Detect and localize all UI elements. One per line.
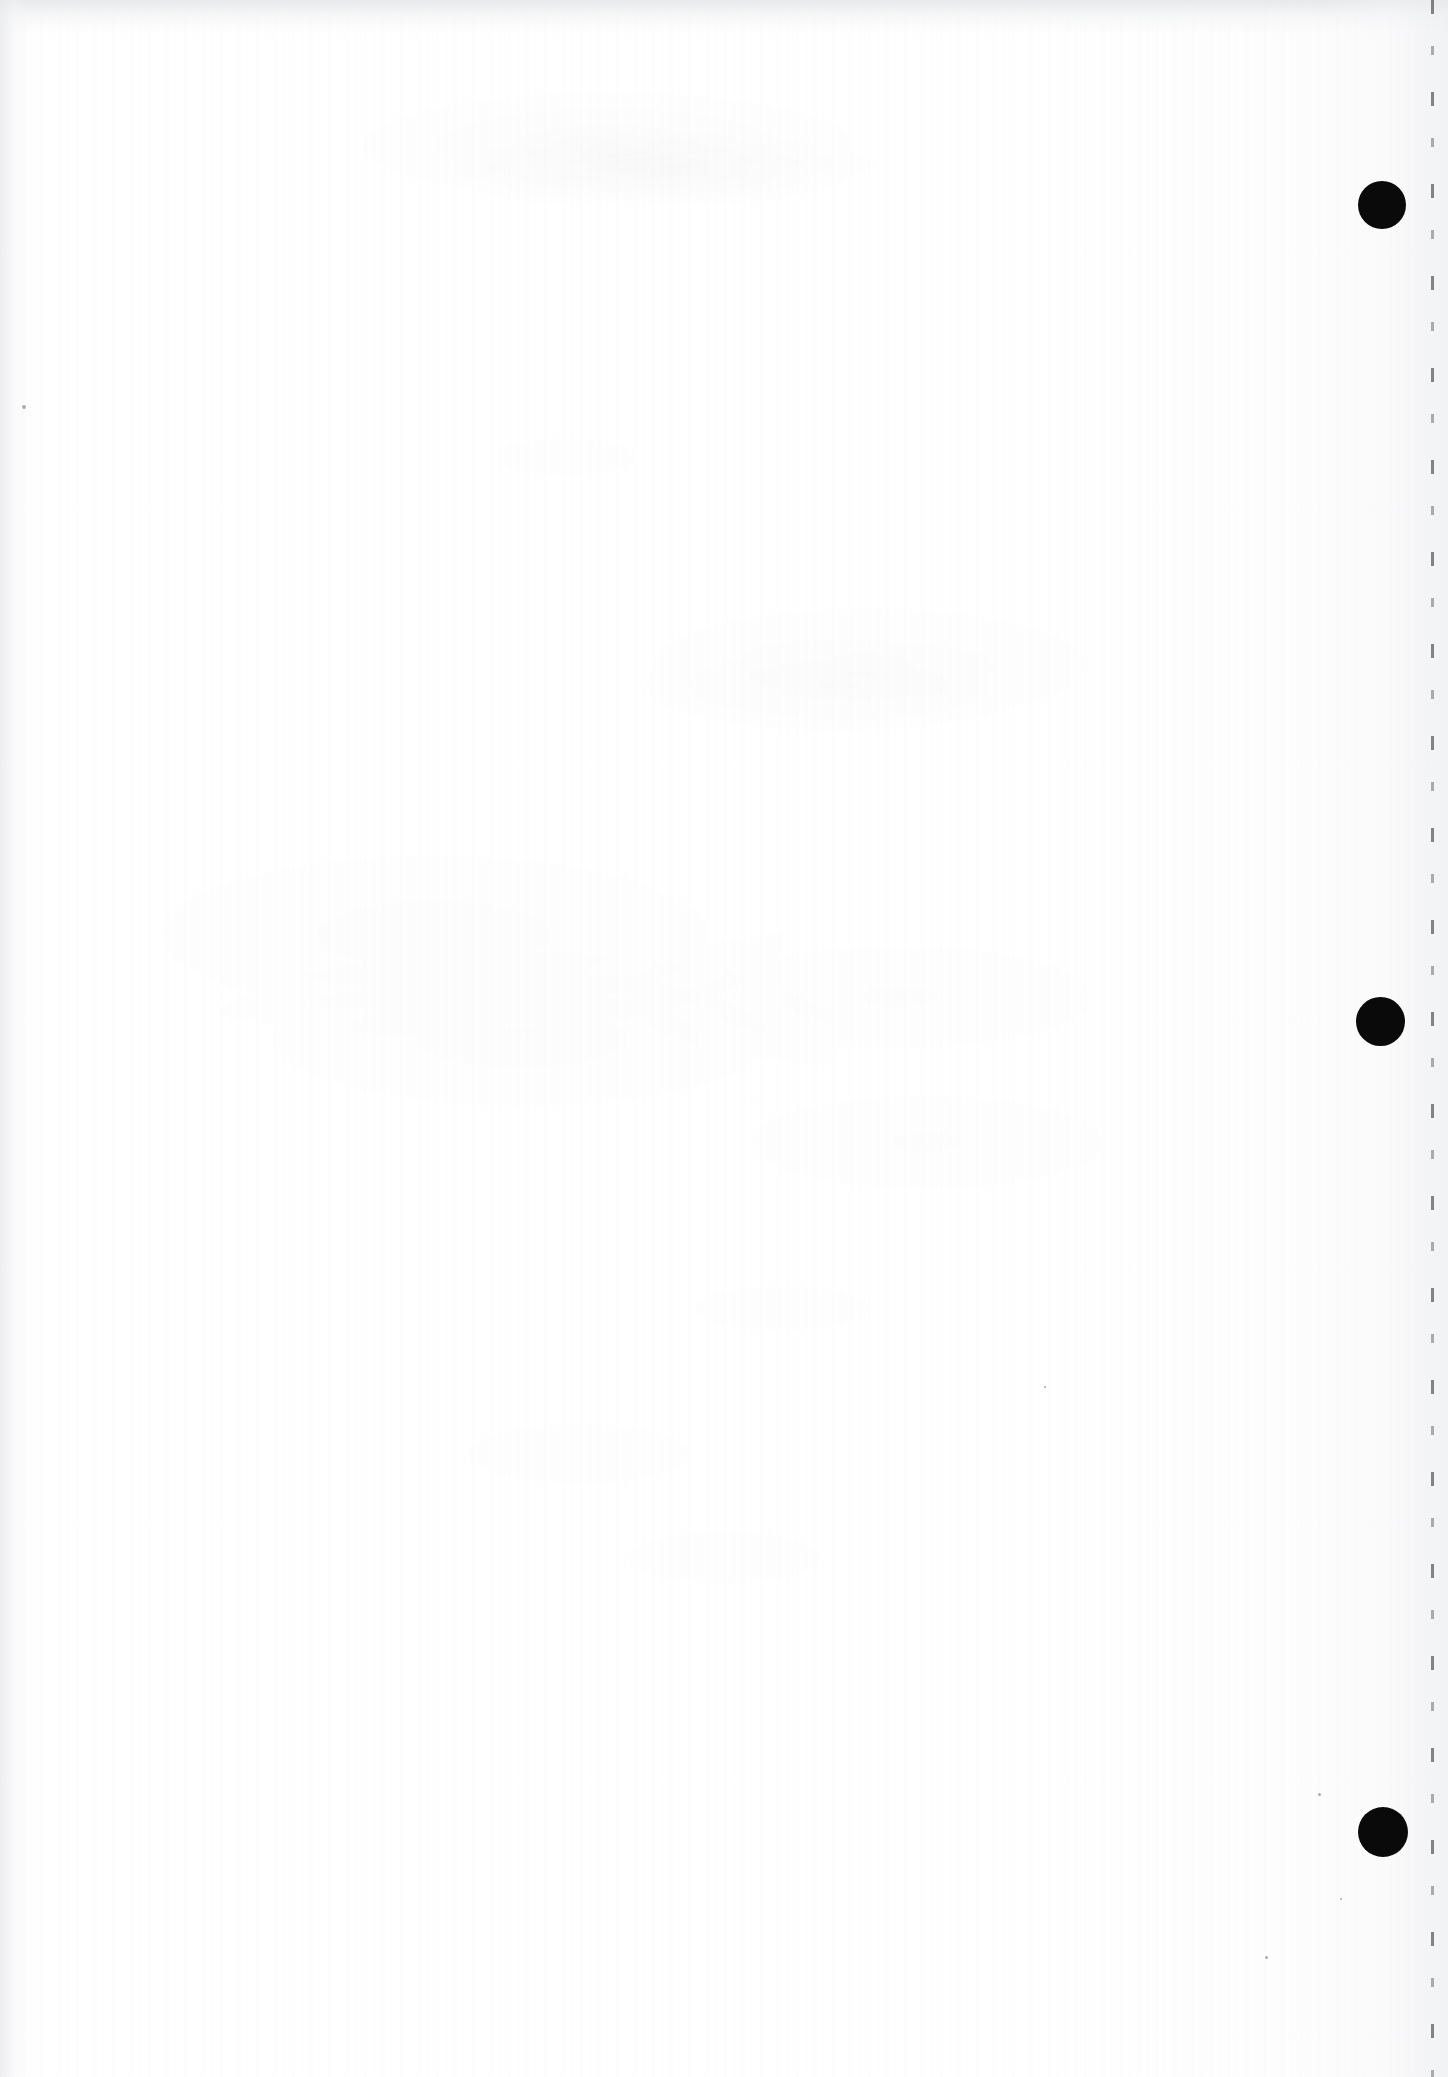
scan-speck [1340,1898,1342,1900]
scan-speck [1265,1956,1268,1959]
scan-speck [22,405,26,409]
register-mark-middle-icon [1356,997,1405,1046]
register-mark-top-icon [1358,181,1406,229]
register-mark-bottom-icon [1358,1807,1408,1857]
top-edge-scan-band [0,0,1448,34]
left-edge-scan-band [0,0,26,2077]
right-margin-broken-rule-icon [1431,0,1434,2077]
scan-speck [1318,1793,1321,1796]
show-through-ghost-text [0,0,1448,2077]
scanned-page [0,0,1448,2077]
scan-speck [1044,1386,1046,1388]
